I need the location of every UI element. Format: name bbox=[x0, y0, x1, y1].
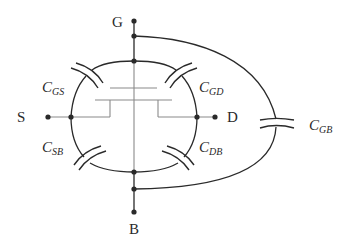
csb-label: CSB bbox=[42, 139, 63, 157]
cdb-label: CDB bbox=[199, 139, 222, 157]
loop-arc-left-upper bbox=[71, 76, 86, 117]
loop-arc-bottom-left bbox=[90, 163, 134, 172]
cgb-arc-lower bbox=[134, 127, 276, 189]
loop-arc-left-lower bbox=[71, 117, 84, 157]
loop-arc-right-upper bbox=[182, 76, 197, 117]
loop-arc-top-right bbox=[134, 61, 176, 70]
body-cgb-node bbox=[131, 186, 136, 191]
drain-terminal-dot[interactable] bbox=[212, 114, 217, 119]
source-label: S bbox=[17, 109, 25, 125]
loop-arc-bottom-right bbox=[134, 163, 178, 172]
cgs-label: CGS bbox=[42, 79, 64, 97]
loop-arc-right-lower bbox=[184, 117, 197, 157]
cgb-label: CGB bbox=[309, 117, 332, 135]
cgb-arc-upper bbox=[134, 36, 276, 119]
body-label: B bbox=[129, 221, 139, 237]
source-loop-node bbox=[68, 114, 73, 119]
drain-label: D bbox=[227, 109, 238, 125]
source-terminal-dot[interactable] bbox=[45, 114, 50, 119]
mosfet-capacitance-diagram: G S D B CGS CGD CSB CDB CGB bbox=[0, 0, 347, 244]
gate-terminal-dot[interactable] bbox=[131, 18, 136, 23]
gate-label: G bbox=[112, 14, 123, 30]
cgd-label: CGD bbox=[199, 79, 224, 97]
gate-cgb-node bbox=[131, 33, 136, 38]
drain-loop-node bbox=[194, 114, 199, 119]
body-loop-node bbox=[131, 169, 136, 174]
gate-loop-node bbox=[131, 58, 136, 63]
loop-arc-top-left bbox=[92, 61, 134, 70]
capacitor-cgb-symbol bbox=[260, 119, 294, 129]
body-terminal-dot[interactable] bbox=[131, 209, 136, 214]
